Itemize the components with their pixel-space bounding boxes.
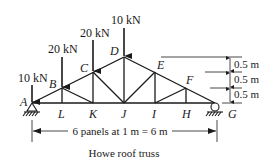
howe-truss-diagram: 10 kN 20 kN 20 kN 10 kN A B C D E F L K … (0, 0, 276, 163)
load-label-D: 10 kN (111, 13, 141, 27)
height-label-2: 0.5 m (234, 73, 260, 85)
node-label-J: J (121, 107, 127, 121)
node-label-H: H (181, 107, 192, 121)
node-label-C: C (80, 61, 89, 75)
roller-support-icon (206, 103, 223, 116)
member-BK (62, 88, 93, 103)
node-label-L: L (57, 107, 65, 121)
member-FI (155, 88, 186, 103)
member-EJ (124, 72, 155, 103)
node-label-A: A (19, 95, 28, 109)
height-label-3: 0.5 m (234, 88, 260, 100)
node-label-E: E (156, 58, 165, 72)
member-CJ (93, 72, 124, 103)
load-label-A: 10 kN (18, 71, 48, 85)
loads (32, 28, 124, 102)
node-label-I: I (151, 107, 157, 121)
load-label-B: 20 kN (48, 42, 78, 56)
node-label-K: K (88, 107, 98, 121)
node-label-G: G (228, 107, 237, 121)
node-label-F: F (185, 73, 194, 87)
node-label-B: B (49, 77, 57, 91)
load-label-C: 20 kN (80, 26, 110, 40)
node-label-D: D (109, 44, 119, 58)
figure-caption: Howe roof truss (89, 147, 160, 159)
span-label: 6 panels at 1 m = 6 m (72, 125, 168, 137)
height-label-1: 0.5 m (234, 58, 260, 70)
